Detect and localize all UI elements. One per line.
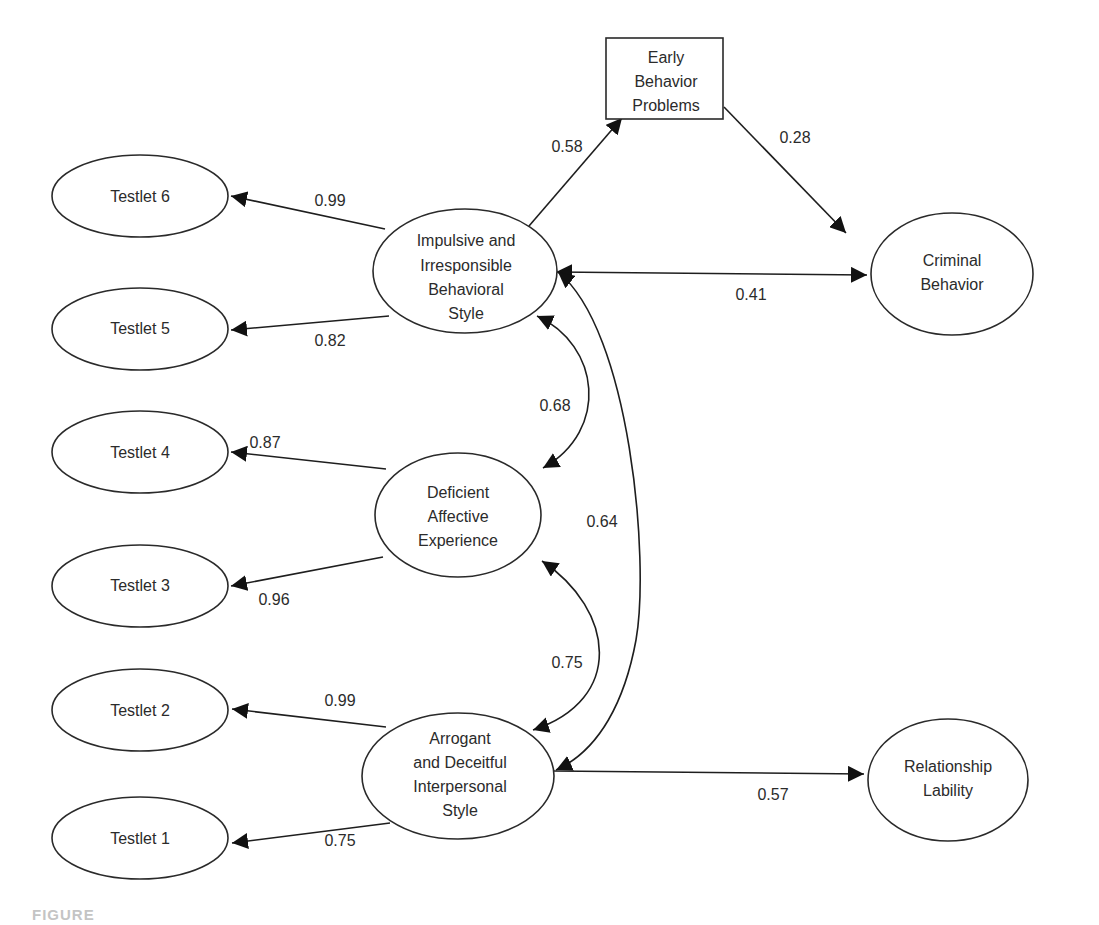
coef-impulsive-testlet6: 0.99 — [314, 192, 345, 209]
coef-deficient-testlet3: 0.96 — [258, 591, 289, 608]
edge-impulsive-testlet5 — [231, 316, 389, 330]
coef-arrogant-testlet2: 0.99 — [324, 692, 355, 709]
node-relationship-lability: Relationship Lability — [868, 719, 1028, 841]
edge-impulsive-criminal — [556, 272, 867, 275]
edge-deficient-arrogant — [533, 561, 599, 730]
impulsive-label-line1: Impulsive and — [417, 232, 516, 249]
testlet4-label: Testlet 4 — [110, 444, 170, 461]
node-testlet6: Testlet 6 — [52, 155, 228, 237]
arrogant-label-line2: and Deceitful — [413, 754, 506, 771]
node-impulsive-irresponsible-behavioral-style: Impulsive and Irresponsible Behavioral S… — [373, 209, 557, 333]
node-arrogant-deceitful-interpersonal-style: Arrogant and Deceitful Interpersonal Sty… — [362, 713, 554, 839]
sem-diagram: Testlet 6 Testlet 5 Testlet 4 Testlet 3 … — [0, 0, 1099, 925]
arrogant-label-line4: Style — [442, 802, 478, 819]
figure-caption: FIGURE — [32, 906, 95, 923]
relationship-label-line1: Relationship — [904, 758, 992, 775]
early-label-line1: Early — [648, 49, 684, 66]
edge-impulsive-deficient — [537, 316, 589, 468]
node-testlet5: Testlet 5 — [52, 288, 228, 370]
node-testlet3: Testlet 3 — [52, 545, 228, 627]
edge-deficient-testlet3 — [231, 557, 383, 586]
early-label-line3: Problems — [632, 97, 700, 114]
testlet6-label: Testlet 6 — [110, 188, 170, 205]
impulsive-label-line3: Behavioral — [428, 281, 504, 298]
edge-deficient-testlet4 — [231, 452, 386, 469]
testlet2-label: Testlet 2 — [110, 702, 170, 719]
coef-impulsive-early: 0.58 — [551, 138, 582, 155]
node-testlet2: Testlet 2 — [52, 669, 228, 751]
edge-early-criminal — [724, 107, 846, 233]
coef-arrogant-testlet1: 0.75 — [324, 832, 355, 849]
criminal-label-line1: Criminal — [923, 252, 982, 269]
coef-deficient-arrogant: 0.75 — [551, 654, 582, 671]
testlet5-label: Testlet 5 — [110, 320, 170, 337]
early-label-line2: Behavior — [634, 73, 698, 90]
edge-arrogant-testlet2 — [232, 709, 386, 727]
coef-impulsive-deficient: 0.68 — [539, 397, 570, 414]
edge-impulsive-testlet6 — [231, 196, 385, 229]
coef-impulsive-testlet5: 0.82 — [314, 332, 345, 349]
edge-arrogant-relationship — [554, 771, 864, 774]
deficient-label-line1: Deficient — [427, 484, 490, 501]
edge-arrogant-testlet1 — [232, 823, 390, 843]
deficient-label-line3: Experience — [418, 532, 498, 549]
arrogant-label-line3: Interpersonal — [413, 778, 506, 795]
relationship-label-line2: Lability — [923, 782, 973, 799]
coef-arrogant-relationship: 0.57 — [757, 786, 788, 803]
edge-impulsive-early — [529, 118, 622, 226]
coef-impulsive-criminal: 0.41 — [735, 286, 766, 303]
impulsive-label-line2: Irresponsible — [420, 257, 512, 274]
edges — [231, 107, 867, 843]
coef-impulsive-arrogant: 0.64 — [586, 513, 617, 530]
node-criminal-behavior: Criminal Behavior — [871, 213, 1033, 335]
deficient-label-line2: Affective — [427, 508, 488, 525]
testlet1-label: Testlet 1 — [110, 830, 170, 847]
node-early-behavior-problems: Early Behavior Problems — [606, 38, 723, 119]
criminal-label-line2: Behavior — [920, 276, 984, 293]
node-testlet1: Testlet 1 — [52, 797, 228, 879]
node-deficient-affective-experience: Deficient Affective Experience — [375, 453, 541, 577]
arrogant-label-line1: Arrogant — [429, 730, 491, 747]
coef-early-criminal: 0.28 — [779, 129, 810, 146]
impulsive-label-line4: Style — [448, 305, 484, 322]
testlet3-label: Testlet 3 — [110, 577, 170, 594]
node-testlet4: Testlet 4 — [52, 411, 228, 493]
coef-deficient-testlet4: 0.87 — [249, 434, 280, 451]
